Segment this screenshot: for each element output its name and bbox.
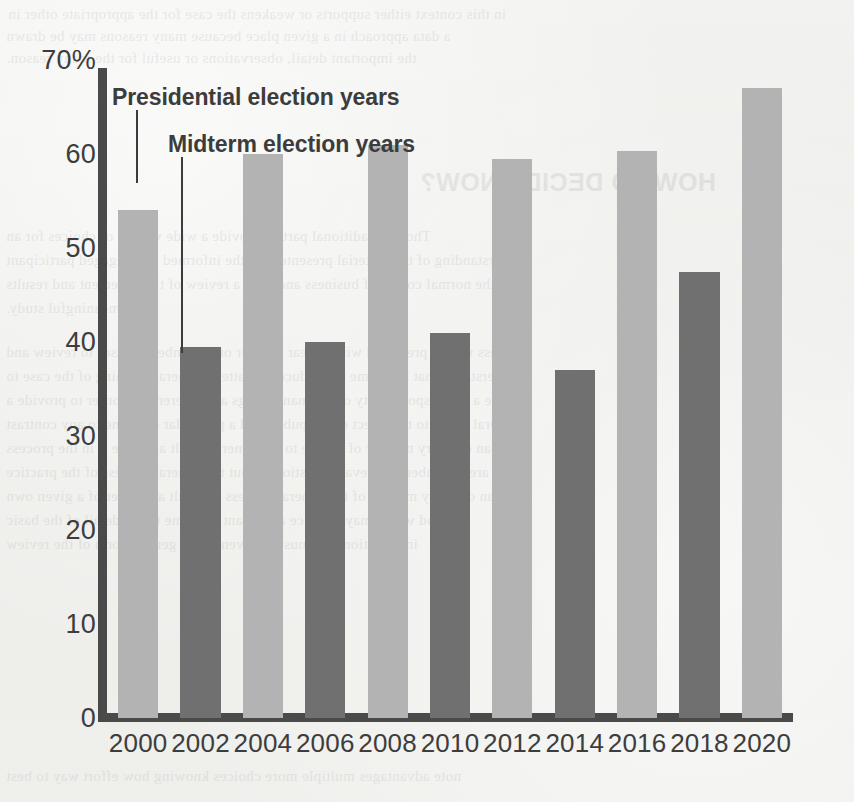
- x-axis-tick-2004: 2004: [234, 728, 293, 759]
- bar-2000: [118, 210, 158, 718]
- x-axis-tick-2000: 2000: [109, 728, 168, 759]
- bar-chart: 70%6050403020100 20002002200420062008201…: [0, 0, 854, 802]
- x-axis-tick-2020: 2020: [732, 728, 791, 759]
- chart-page: in this context either supports or weake…: [0, 0, 854, 802]
- leader-line-midterm: [181, 157, 183, 353]
- bar-2014: [555, 370, 595, 718]
- callout-midterm-election-years: Midterm election years: [168, 131, 415, 158]
- bar-2002: [180, 347, 220, 718]
- bar-2012: [492, 159, 532, 718]
- callout-presidential-election-years: Presidential election years: [112, 84, 400, 111]
- y-axis: 70%6050403020100: [0, 0, 96, 802]
- bar-2016: [617, 151, 657, 718]
- x-axis-tick-2018: 2018: [670, 728, 729, 759]
- x-axis-tick-2012: 2012: [483, 728, 542, 759]
- x-axis-tick-2014: 2014: [545, 728, 604, 759]
- plot-area: [107, 60, 793, 718]
- x-axis-tick-2002: 2002: [171, 728, 230, 759]
- y-axis-line: [98, 68, 107, 722]
- bar-2008: [368, 145, 408, 718]
- x-axis-tick-2010: 2010: [421, 728, 480, 759]
- x-axis: 2000200220042006200820102012201420162018…: [107, 728, 793, 774]
- bar-2018: [679, 272, 719, 719]
- y-axis-tick-50: 50: [12, 233, 96, 264]
- leader-line-presidential: [136, 110, 138, 183]
- x-axis-tick-2016: 2016: [608, 728, 667, 759]
- bar-2010: [430, 333, 470, 718]
- x-axis-tick-2006: 2006: [296, 728, 355, 759]
- bar-2004: [243, 154, 283, 718]
- y-axis-tick-30: 30: [12, 421, 96, 452]
- y-axis-tick-40: 40: [12, 327, 96, 358]
- bar-2020: [742, 88, 782, 718]
- x-axis-tick-2008: 2008: [358, 728, 417, 759]
- y-axis-tick-70pct: 70%: [12, 45, 96, 76]
- y-axis-tick-10: 10: [12, 609, 96, 640]
- y-axis-tick-20: 20: [12, 515, 96, 546]
- y-axis-tick-0: 0: [12, 703, 96, 734]
- bar-2006: [305, 342, 345, 718]
- y-axis-tick-60: 60: [12, 139, 96, 170]
